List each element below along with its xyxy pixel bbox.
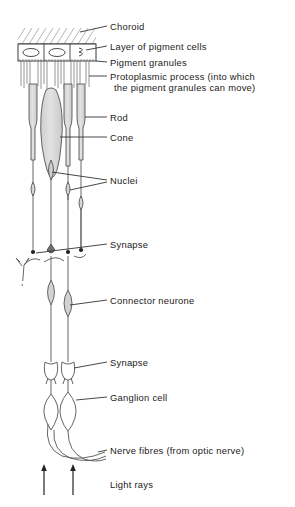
horizontal-cell [16, 258, 64, 286]
leader-nerve-fibres [98, 450, 107, 452]
nucleus [49, 160, 54, 180]
connector-neurone-soma [48, 280, 55, 305]
label-ganglion-cell: Ganglion cell [110, 392, 167, 404]
connector-neurone-1 [48, 256, 55, 362]
label-rod: Rod [110, 112, 128, 124]
label-choroid: Choroid [110, 21, 145, 33]
pigment-cell-nucleus [23, 49, 39, 57]
leader-ganglion-cell [76, 397, 107, 400]
choroid-layer [18, 28, 96, 44]
label-protoplasmic-process: Protoplasmic process (into which [110, 71, 255, 83]
label-pigment-granules: Pigment granules [110, 57, 187, 69]
synapse-inner-group [44, 362, 74, 386]
nerve-fibres [47, 424, 106, 461]
nucleus [31, 182, 35, 196]
ganglion-cell-2 [60, 386, 76, 431]
leader-pigment-granules [96, 61, 107, 62]
connector-neurone-soma [64, 290, 72, 317]
synapse-terminal [79, 248, 83, 252]
label-connector-neurone: Connector neurone [110, 295, 195, 307]
ganglion-cell-1 [44, 386, 58, 430]
leader-synapse-inner [74, 362, 107, 368]
leader-connector-neurone [70, 300, 107, 305]
leader-nuclei-cone [52, 172, 107, 180]
label-pigment-cell-layer: Layer of pigment cells [110, 41, 207, 53]
nucleus [66, 182, 70, 196]
label-nerve-fibres: Nerve fibres (from optic nerve) [110, 445, 244, 457]
label-synapse-outer: Synapse [110, 239, 148, 251]
leader-synapse-outer [36, 244, 107, 253]
label-light-rays: Light rays [110, 479, 153, 491]
label-protoplasmic-process-cont: the pigment granules can move) [114, 82, 255, 94]
synapse-cup [44, 362, 57, 380]
nucleus [79, 196, 83, 210]
connector-neurone-2 [64, 256, 72, 362]
pigment-cell-layer [18, 44, 96, 61]
light-ray-arrows [41, 464, 76, 495]
synapse-cup [61, 362, 74, 380]
pigment-cell-nucleus [49, 49, 65, 57]
synapse-terminal [31, 250, 35, 254]
synapse-terminal [66, 250, 70, 254]
label-synapse-inner: Synapse [110, 357, 148, 369]
ganglion-cell-soma [44, 394, 58, 430]
synapse-outer-group [31, 244, 86, 258]
rod-cell-1 [29, 84, 37, 196]
photoreceptor-axons [33, 196, 81, 250]
retina-structure-diagram: Choroid Layer of pigment cells Pigment g… [0, 0, 295, 507]
ganglion-cell-soma [60, 392, 76, 431]
leader-nuclei-rod [70, 182, 107, 190]
label-nuclei: Nuclei [110, 175, 138, 187]
label-cone: Cone [110, 132, 133, 144]
